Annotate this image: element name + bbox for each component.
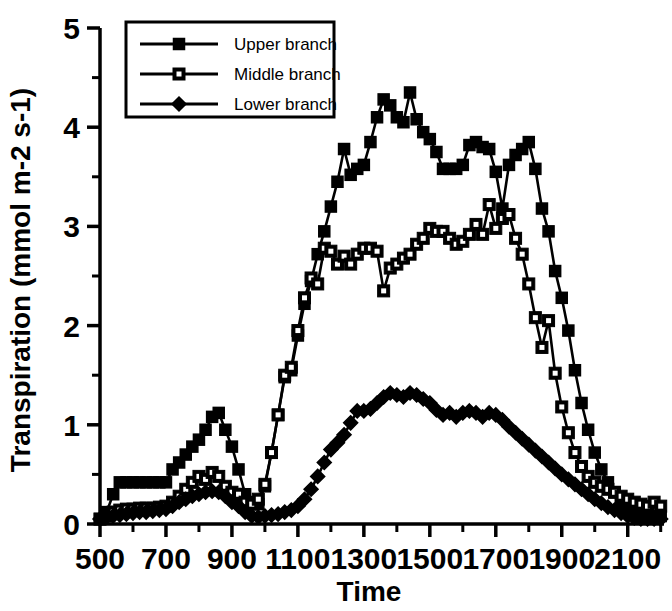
data-point-marker <box>319 226 330 237</box>
data-point-marker <box>220 424 231 435</box>
data-point-marker <box>411 114 422 125</box>
y-axis-ticks <box>87 28 100 524</box>
data-point-marker <box>583 424 594 435</box>
y-tick-label: 1 <box>63 409 80 442</box>
data-point-marker <box>556 292 567 303</box>
data-point-marker <box>556 401 568 413</box>
x-tick-label: 1100 <box>265 542 330 575</box>
data-point-marker <box>484 144 495 155</box>
x-axis-title: Time <box>337 576 402 607</box>
y-tick-label: 2 <box>63 310 80 343</box>
data-point-marker <box>358 159 369 170</box>
data-point-marker <box>510 232 522 244</box>
data-point-marker <box>490 166 501 177</box>
data-point-marker <box>589 447 600 458</box>
data-point-marker <box>332 176 343 187</box>
x-tick-label: 1900 <box>528 542 595 575</box>
data-point-marker <box>655 500 667 512</box>
data-point-marker <box>108 489 119 500</box>
x-tick-label: 1500 <box>396 542 463 575</box>
data-point-marker <box>317 455 331 469</box>
data-point-marker <box>563 325 574 336</box>
data-point-marker <box>569 365 580 376</box>
data-point-marker <box>200 424 211 435</box>
data-point-marker <box>371 245 383 257</box>
data-point-marker <box>569 447 581 459</box>
x-tick-label: 1300 <box>330 542 397 575</box>
data-point-marker <box>529 312 541 324</box>
data-point-marker <box>160 477 171 488</box>
data-point-marker <box>457 159 468 170</box>
data-point-marker <box>530 163 541 174</box>
data-point-marker <box>339 144 350 155</box>
data-point-marker <box>576 397 587 408</box>
data-point-marker <box>483 199 495 211</box>
x-axis-tick-labels: 500700900110013001500170019002100 <box>75 542 661 575</box>
data-point-marker <box>516 248 528 260</box>
data-point-marker <box>523 137 534 148</box>
legend-marker <box>173 68 185 80</box>
y-axis-title: Transpiration (mmol m-2 s-1) <box>5 88 36 472</box>
data-point-marker <box>543 315 555 327</box>
data-point-marker <box>252 493 264 505</box>
data-point-marker <box>562 427 574 439</box>
legend-marker <box>174 39 185 50</box>
y-tick-label: 5 <box>63 12 80 45</box>
data-point-marker <box>325 245 337 257</box>
y-tick-label: 3 <box>63 210 80 243</box>
data-point-marker <box>398 117 409 128</box>
data-series-layer <box>93 87 668 526</box>
data-point-marker <box>477 228 489 240</box>
data-point-marker <box>298 292 310 304</box>
transpiration-line-chart: 012345 500700900110013001500170019002100… <box>0 0 672 611</box>
x-tick-label: 900 <box>207 542 257 575</box>
data-point-marker <box>233 464 244 475</box>
chart-figure: 012345 500700900110013001500170019002100… <box>0 0 672 611</box>
y-tick-label: 4 <box>63 111 80 144</box>
data-point-marker <box>536 203 547 214</box>
x-tick-label: 1700 <box>462 542 529 575</box>
data-point-marker <box>272 409 284 421</box>
data-point-marker <box>344 416 358 430</box>
data-point-marker <box>550 266 561 277</box>
x-tick-label: 700 <box>141 542 191 575</box>
legend-label: Lower branch <box>234 95 337 114</box>
data-point-marker <box>325 201 336 212</box>
data-point-marker <box>259 478 271 490</box>
data-point-marker <box>292 325 304 337</box>
data-point-marker <box>378 285 390 297</box>
x-tick-label: 2100 <box>594 542 661 575</box>
chart-legend: Upper branchMiddle branchLower branch <box>126 22 341 117</box>
data-point-marker <box>503 208 515 220</box>
data-point-marker <box>405 87 416 98</box>
data-point-marker <box>365 137 376 148</box>
y-tick-label: 0 <box>63 508 80 541</box>
data-point-marker <box>266 447 278 459</box>
data-point-marker <box>311 469 325 483</box>
data-point-marker <box>424 134 435 145</box>
legend-label: Upper branch <box>234 35 337 54</box>
data-point-marker <box>536 341 548 353</box>
data-point-marker <box>523 278 535 290</box>
legend-label: Middle branch <box>234 65 341 84</box>
x-tick-label: 500 <box>75 542 125 575</box>
data-point-marker <box>285 361 297 373</box>
data-point-marker <box>431 147 442 158</box>
data-point-marker <box>543 226 554 237</box>
y-axis-tick-labels: 012345 <box>63 12 80 541</box>
data-point-marker <box>226 441 237 452</box>
data-point-marker <box>312 278 324 290</box>
series-middle-branch <box>94 199 667 525</box>
data-point-marker <box>549 367 561 379</box>
data-point-marker <box>596 464 607 475</box>
x-axis-ticks <box>100 524 661 537</box>
data-point-marker <box>372 112 383 123</box>
data-point-marker <box>213 407 224 418</box>
data-point-marker <box>385 100 396 111</box>
